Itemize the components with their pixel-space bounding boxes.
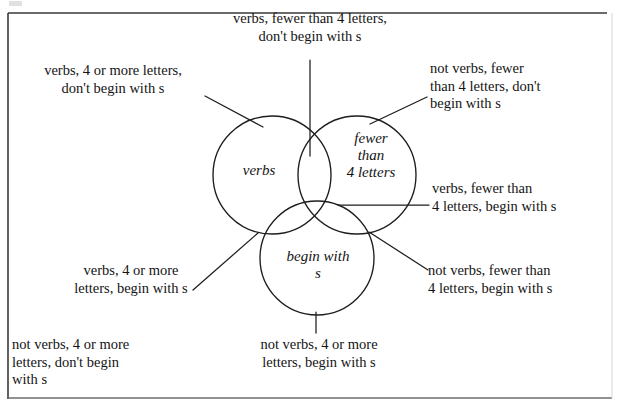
leader-lines (193, 60, 429, 333)
region-label-verbs-4plus-no-s: verbs, 4 or more letters, don't begin wi… (6, 62, 220, 97)
region-label-notverbs-4plus-with-s: not verbs, 4 or more letters, begin with… (216, 336, 422, 371)
region-label-notverbs-4plus-no-s: not verbs, 4 or more letters, don't begi… (12, 336, 188, 389)
leader-top-right (370, 97, 427, 124)
set-label-verbs: verbs (218, 162, 300, 179)
figure-page: verbs, fewer than 4 letters, don't begin… (0, 0, 620, 413)
region-label-verbs-fewer-with-s: verbs, fewer than 4 letters, begin with … (432, 180, 618, 215)
region-label-verbs-fewer-no-s: verbs, fewer than 4 letters, don't begin… (186, 10, 434, 45)
region-label-verbs-4plus-with-s: verbs, 4 or more letters, begin with s (36, 262, 226, 297)
set-label-begin-with-s: begin with s (259, 248, 377, 282)
leader-top-left (205, 96, 263, 127)
region-label-notverbs-fewer-with-s: not verbs, fewer than 4 letters, begin w… (428, 262, 618, 297)
set-label-fewer-than-4-letters: fewer than 4 letters (325, 130, 417, 181)
region-label-notverbs-fewer-no-s: not verbs, fewer than 4 letters, don't b… (430, 60, 614, 113)
leader-right-lower (369, 232, 428, 270)
